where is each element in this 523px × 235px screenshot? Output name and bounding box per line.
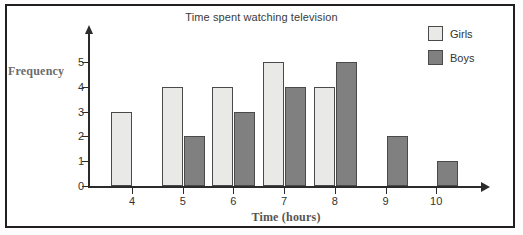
x-tick-label: 7	[281, 195, 287, 207]
bar-boys-8	[336, 62, 357, 186]
x-axis-arrow-icon	[481, 182, 490, 192]
y-tick-label: 4	[78, 81, 84, 93]
bar-boys-10	[437, 161, 458, 186]
x-tick-label: 5	[180, 195, 186, 207]
x-tick-mark	[386, 188, 387, 194]
bar-boys-7	[285, 87, 306, 186]
x-tick-label: 8	[332, 195, 338, 207]
bar-boys-6	[234, 112, 255, 186]
x-tick-label: 6	[230, 195, 236, 207]
x-axis-line	[88, 186, 484, 188]
legend-label: Boys	[450, 52, 474, 64]
x-tick-label: 4	[129, 195, 135, 207]
y-tick-label: 5	[78, 56, 84, 68]
y-tick-label: 0	[78, 180, 84, 192]
x-axis-title: Time (hours)	[88, 210, 484, 225]
y-tick-label: 2	[78, 130, 84, 142]
x-tick-mark	[132, 188, 133, 194]
y-axis-arrow-icon	[85, 25, 93, 34]
legend-item-boys: Boys	[428, 50, 474, 65]
bar-boys-5	[184, 136, 205, 186]
chart-legend: GirlsBoys	[428, 26, 474, 74]
x-tick-mark	[183, 188, 184, 194]
x-tick-mark	[436, 188, 437, 194]
x-tick-label: 10	[430, 195, 442, 207]
legend-label: Girls	[450, 28, 473, 40]
x-tick-mark	[233, 188, 234, 194]
y-axis-line	[88, 33, 90, 188]
x-tick-mark	[335, 188, 336, 194]
legend-item-girls: Girls	[428, 26, 474, 41]
y-tick-label: 3	[78, 106, 84, 118]
plot-area: 543210 45678910	[88, 33, 484, 188]
bar-boys-9	[387, 136, 408, 186]
chart-title: Time spent watching television	[0, 11, 523, 23]
bar-girls-4	[111, 112, 132, 186]
bar-girls-8	[314, 87, 335, 186]
y-tick-label: 1	[78, 155, 84, 167]
x-tick-label: 9	[382, 195, 388, 207]
x-tick-mark	[284, 188, 285, 194]
chart-figure: Time spent watching television Frequency…	[0, 0, 523, 235]
y-axis-title: Frequency	[8, 64, 64, 79]
legend-swatch-boys	[428, 50, 443, 65]
bar-girls-7	[263, 62, 284, 186]
legend-swatch-girls	[428, 26, 443, 41]
bar-girls-6	[212, 87, 233, 186]
bar-girls-5	[162, 87, 183, 186]
